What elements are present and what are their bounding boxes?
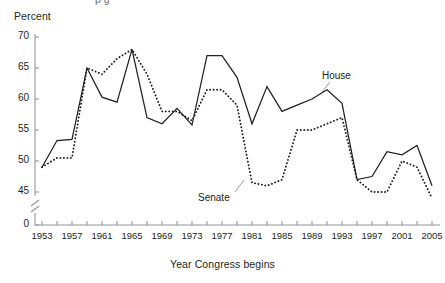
y-tick-label: 65 [3, 61, 29, 72]
chart-figure: p g Percent Year Congress begins House S… [0, 0, 445, 283]
label-leader-lines [235, 82, 330, 192]
y-tick-label: 0 [3, 218, 29, 229]
y-tick-label: 45 [3, 185, 29, 196]
series-line-senate [42, 49, 432, 198]
y-tick-label: 55 [3, 123, 29, 134]
series-line-house [42, 49, 432, 185]
y-axis-break-icon [31, 200, 39, 212]
axes-group [31, 34, 440, 225]
series-lines-group [42, 49, 432, 198]
x-tick-label: 2005 [412, 230, 445, 241]
ticks-group [35, 37, 432, 225]
y-tick-label: 70 [3, 30, 29, 41]
y-tick-label: 60 [3, 92, 29, 103]
leader-line-senate [235, 180, 244, 192]
y-tick-label: 50 [3, 154, 29, 165]
